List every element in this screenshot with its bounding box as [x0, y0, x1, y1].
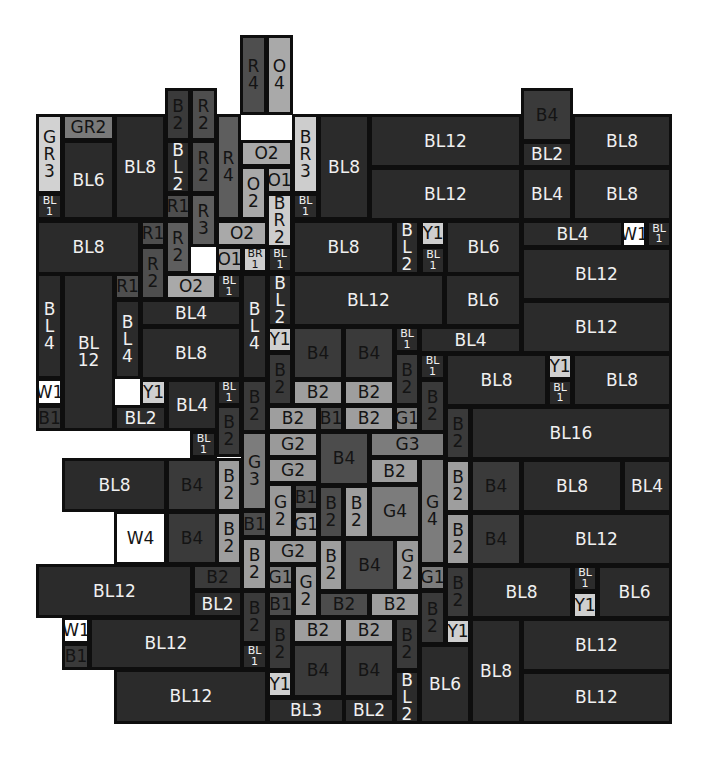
brick-br1: BR 1: [242, 246, 268, 273]
brick-b2-l9: B 2: [216, 511, 242, 565]
brick-bl4-f: B L 4: [241, 273, 268, 380]
brick-bl4-g: BL4: [419, 326, 522, 354]
brick-bl12-j: BL12: [521, 618, 672, 672]
brick-g4-a: G4: [369, 484, 421, 539]
brick-r1-c: R1: [114, 273, 141, 300]
brick-o2-d: O2: [165, 273, 217, 300]
brick-bl1-k: BL 1: [190, 431, 217, 458]
brick-b2-l3: B2: [267, 405, 319, 432]
brick-bl1-i: BL 1: [547, 379, 573, 407]
brick-bl8-g: BL8: [140, 326, 242, 380]
brick-b4-j: B4: [343, 643, 395, 698]
brick-b2-l7: B 2: [343, 485, 370, 539]
brick-b2-l8: B 2: [445, 459, 471, 513]
brick-o1-a: O1: [266, 166, 293, 194]
brick-bl8-m: BL8: [470, 618, 522, 724]
brick-bl2-f: BL2: [192, 590, 243, 618]
brick-b4-f: B4: [166, 511, 218, 565]
brick-b2-l5: B2: [369, 457, 420, 485]
brick-b2-e: B 2: [419, 379, 446, 433]
brick-bl8-h: BL8: [445, 353, 548, 407]
brick-b2-l11: B 2: [318, 538, 344, 592]
brick-b2-c: B 2: [216, 405, 242, 457]
brick-layout-diagram: R 4O 4G R 3GR2BL6BL8BL 1B 2R 2B L 2R 2R …: [0, 0, 706, 762]
brick-b2-l15: B2: [343, 617, 395, 644]
brick-b2-h: B2: [192, 564, 243, 591]
brick-bl8-j: BL8: [62, 458, 167, 512]
brick-b1-c: B1: [293, 483, 319, 511]
brick-bl6-e: BL6: [419, 644, 471, 724]
brick-bl1-h: BL 1: [419, 353, 446, 380]
brick-bl12-i: BL12: [89, 617, 243, 670]
brick-b4-d: B4: [166, 458, 218, 512]
brick-o2-a: O2: [240, 140, 293, 167]
brick-bl2-e: BL2: [114, 405, 167, 431]
brick-y1-f: Y1: [445, 618, 471, 645]
brick-bl12-a: BL12: [369, 114, 522, 168]
brick-bl2-d: B L 2: [267, 273, 293, 327]
brick-br2: B R 2: [266, 193, 293, 248]
brick-bl12-c: BL12: [521, 247, 672, 301]
brick-b2-a: B 2: [267, 352, 293, 406]
brick-o1-b: O1: [216, 246, 243, 273]
brick-bl12-b: BL12: [369, 167, 522, 221]
brick-bl4-d: B L 4: [114, 299, 141, 379]
brick-bl2-b: BL2: [521, 141, 573, 168]
brick-g2-a: G2: [267, 431, 319, 458]
brick-b2-l14: B2: [292, 617, 344, 644]
brick-bl8-i: BL8: [572, 353, 672, 407]
brick-g1-a: G1: [394, 405, 420, 432]
brick-g2-v1: G 2: [267, 483, 294, 539]
brick-bl16: BL16: [470, 406, 672, 460]
brick-bl1-j: BL 1: [216, 379, 242, 406]
brick-b1-b: B1: [318, 405, 344, 432]
brick-bl6-c: BL6: [444, 273, 522, 327]
brick-g2-b: G2: [267, 457, 319, 484]
brick-bl8-f: BL8: [292, 220, 395, 275]
brick-bl4-c: B L 4: [36, 273, 63, 379]
brick-bl8-l: BL8: [470, 565, 573, 619]
brick-b1-a: B1: [36, 405, 63, 431]
brick-w1-b: W1: [36, 378, 63, 406]
brick-b2-l1: B2: [292, 379, 344, 406]
brick-bl2-g: B L 2: [394, 670, 420, 724]
brick-r2-c: R 2: [165, 220, 191, 274]
brick-w4: W4: [114, 511, 167, 565]
brick-b2-d: B 2: [241, 379, 268, 433]
brick-o4-top: O 4: [266, 35, 293, 115]
brick-y1-d: Y1: [140, 379, 167, 406]
brick-bl6-d: BL6: [597, 565, 672, 619]
brick-b2-top: B 2: [165, 88, 191, 141]
brick-y1-a: Y1: [420, 220, 446, 247]
brick-b1-e: B1: [267, 590, 294, 618]
brick-r1-a: R1: [165, 193, 191, 220]
brick-r4-b: R 4: [216, 114, 241, 220]
brick-bl1-a: BL 1: [36, 193, 63, 220]
brick-bl1-l: BL 1: [572, 565, 598, 592]
brick-bl12-k: BL12: [114, 669, 268, 724]
brick-b4-a: B4: [292, 326, 344, 380]
brick-b2-f: B 2: [445, 406, 471, 460]
brick-bl1-b: BL 1: [292, 193, 319, 220]
brick-bl8-c: BL8: [572, 114, 672, 168]
brick-bl1-c: BL 1: [267, 246, 293, 273]
brick-bl4-a: BL4: [521, 167, 573, 221]
brick-b2-l13: B2: [369, 591, 421, 618]
brick-r4-top: R 4: [240, 35, 267, 115]
brick-b2-l10: B 2: [241, 537, 268, 591]
brick-bl1-m: BL 1: [241, 643, 268, 670]
brick-bl1-e: BL 1: [646, 220, 672, 248]
brick-r2-d: R 2: [140, 246, 166, 300]
brick-bl2-c: B L 2: [394, 220, 420, 275]
brick-r1-b: R1: [140, 220, 166, 247]
brick-bl8-k: BL8: [521, 459, 623, 513]
brick-g4-v: G 4: [419, 457, 446, 565]
brick-bl8-b: BL8: [318, 114, 370, 220]
brick-r3: R 3: [190, 193, 217, 247]
brick-bl12-e: BL12: [292, 273, 445, 327]
brick-b4-i: B4: [292, 643, 344, 698]
brick-bl12-f: BL12: [521, 300, 672, 354]
brick-b4-top: B4: [521, 88, 573, 142]
brick-g3-h: G3: [369, 431, 446, 458]
brick-r2-b: R 2: [190, 140, 217, 194]
